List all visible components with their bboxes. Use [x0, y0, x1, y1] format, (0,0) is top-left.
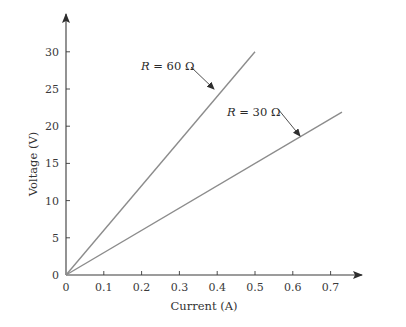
annotation-r60: R = 60 Ω: [140, 59, 214, 89]
x-axis-title: Current (A): [171, 299, 238, 313]
series-lines: [66, 52, 342, 275]
x-tick-label: 0.2: [133, 281, 151, 294]
x-tick-label: 0: [63, 281, 70, 294]
x-tick-label: 0.5: [246, 281, 264, 294]
y-tick-label: 30: [45, 46, 59, 59]
x-tick-label: 0.1: [95, 281, 113, 294]
annotation-r60-arrow: [191, 67, 214, 89]
y-tick-label: 5: [52, 232, 59, 245]
series-line-r60: [66, 52, 255, 275]
axes: [66, 14, 362, 275]
series-line-r30: [66, 112, 342, 275]
y-tick-label: 0: [52, 269, 59, 282]
annotation-r30-label: R = 30 Ω: [226, 105, 280, 119]
y-tick-label: 25: [45, 83, 59, 96]
x-tick-label: 0.6: [284, 281, 302, 294]
annotation-r60-label: R = 60 Ω: [140, 59, 194, 73]
annotation-r30-arrow: [278, 109, 300, 136]
x-tick-label: 0.3: [171, 281, 189, 294]
y-tick-label: 20: [45, 120, 59, 133]
voltage-current-chart: 00.10.20.30.40.50.60.7 051015202530 R = …: [0, 0, 406, 327]
annotation-r30: R = 30 Ω: [226, 105, 300, 136]
y-axis-title: Voltage (V): [26, 132, 40, 197]
x-tick-label: 0.7: [322, 281, 340, 294]
x-tick-label: 0.4: [208, 281, 226, 294]
y-tick-label: 10: [45, 195, 59, 208]
y-tick-label: 15: [45, 157, 59, 170]
